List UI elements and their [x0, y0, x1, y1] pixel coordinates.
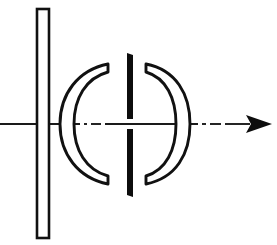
aperture-stop [127, 53, 133, 197]
flat-plate-body [37, 9, 49, 238]
aperture-stop-upper-blade [127, 53, 133, 119]
flat-plate [37, 9, 49, 238]
aperture-stop-lower-blade [127, 129, 133, 197]
optical-system-figure [0, 0, 277, 245]
optical-diagram-canvas [0, 0, 277, 245]
